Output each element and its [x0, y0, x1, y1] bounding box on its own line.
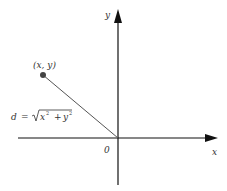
point-marker [40, 72, 46, 78]
distance-diagram: y x 0 (x, y) d = x 2 + y 2 [0, 0, 227, 191]
formula-x-exp: 2 [46, 110, 49, 116]
distance-formula: d = x 2 + y 2 [11, 110, 72, 122]
x-axis-label: x [212, 147, 217, 157]
point-label: (x, y) [33, 60, 56, 70]
y-axis-label: y [104, 10, 111, 20]
formula-equals: = [21, 112, 29, 122]
formula-d: d [11, 112, 17, 122]
formula-y-exp: 2 [69, 110, 72, 116]
distance-line [43, 75, 118, 138]
y-axis-arrow-icon [114, 9, 122, 23]
formula-x: x [40, 112, 45, 122]
origin-label: 0 [104, 145, 110, 155]
formula-plus: + [54, 112, 62, 122]
formula-y: y [62, 112, 69, 122]
x-axis-arrow-icon [205, 134, 218, 142]
